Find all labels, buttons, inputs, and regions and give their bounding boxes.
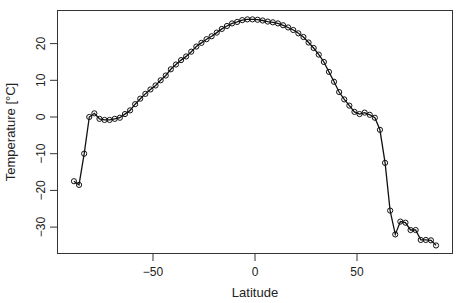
y-axis: −30−20−1001020 bbox=[34, 37, 57, 238]
y-tick-label: −20 bbox=[34, 180, 48, 201]
y-tick-label: −30 bbox=[34, 217, 48, 238]
x-tick-label: 0 bbox=[252, 265, 259, 279]
x-tick-label: 50 bbox=[350, 265, 364, 279]
y-tick-label: −10 bbox=[34, 143, 48, 164]
x-tick-label: −50 bbox=[143, 265, 164, 279]
series-line bbox=[74, 19, 436, 245]
y-axis-label: Temperature [°C] bbox=[3, 83, 18, 181]
x-axis: −50050 bbox=[143, 254, 364, 279]
series-markers bbox=[71, 17, 438, 248]
y-tick-label: 10 bbox=[34, 73, 48, 87]
chart: −50050 −30−20−1001020 Latitude Temperatu… bbox=[0, 0, 457, 303]
y-tick-label: 0 bbox=[34, 113, 48, 120]
y-tick-label: 20 bbox=[34, 37, 48, 51]
plot-frame bbox=[58, 11, 453, 254]
x-axis-label: Latitude bbox=[232, 285, 278, 300]
